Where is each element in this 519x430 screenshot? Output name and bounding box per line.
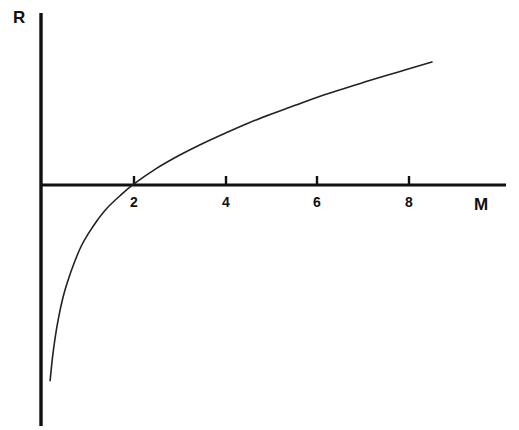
x-tick-label-8: 8 [405, 195, 413, 209]
chart-figure: R M 2 4 6 8 [0, 0, 519, 430]
x-tick-label-6: 6 [313, 195, 321, 209]
data-curve-r-of-m [50, 62, 432, 381]
x-tick-label-2: 2 [130, 195, 138, 209]
x-axis-title: M [474, 196, 488, 213]
x-tick-label-4: 4 [222, 195, 230, 209]
plot-area [0, 0, 519, 430]
y-axis-title: R [13, 9, 25, 26]
